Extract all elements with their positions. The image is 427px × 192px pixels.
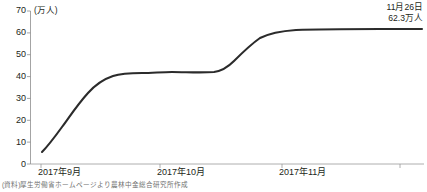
chart-container: (万人) 70 60 50 40 30 20 10 0: [0, 0, 427, 192]
y-tick-label: 40: [16, 72, 26, 81]
y-tick-0: 0: [0, 160, 26, 170]
y-tick-20: 20: [0, 116, 26, 126]
x-tick-label: 2017年9月: [38, 168, 81, 177]
y-tick-40: 40: [0, 72, 26, 82]
y-tick-label: 10: [16, 138, 26, 147]
y-tick-70: 70: [0, 6, 26, 16]
data-line-series-1: [42, 29, 422, 152]
y-tick-label: 60: [16, 28, 26, 37]
x-tick-label: 2017年10月: [157, 168, 205, 177]
y-axis-ticks: [27, 11, 31, 164]
annotation-value: 62.3万人: [387, 13, 423, 24]
source-note: (資料)厚生労働省ホームページより農林中金総合研究所作成: [2, 182, 188, 189]
y-tick-label: 70: [16, 6, 26, 15]
y-tick-label: 0: [21, 160, 26, 169]
data-annotation: 11月26日 62.3万人: [387, 2, 423, 23]
y-tick-10: 10: [0, 138, 26, 148]
y-tick-label: 30: [16, 94, 26, 103]
y-tick-label: 20: [16, 116, 26, 125]
x-tick-label: 2017年11月: [279, 168, 326, 177]
x-axis-ticks: [41, 164, 400, 168]
plot-area: [0, 0, 427, 192]
y-tick-50: 50: [0, 50, 26, 60]
y-axis-unit-label: (万人): [34, 3, 58, 15]
annotation-date: 11月26日: [387, 2, 423, 13]
y-tick-30: 30: [0, 94, 26, 104]
y-tick-60: 60: [0, 28, 26, 38]
y-tick-label: 50: [16, 50, 26, 59]
